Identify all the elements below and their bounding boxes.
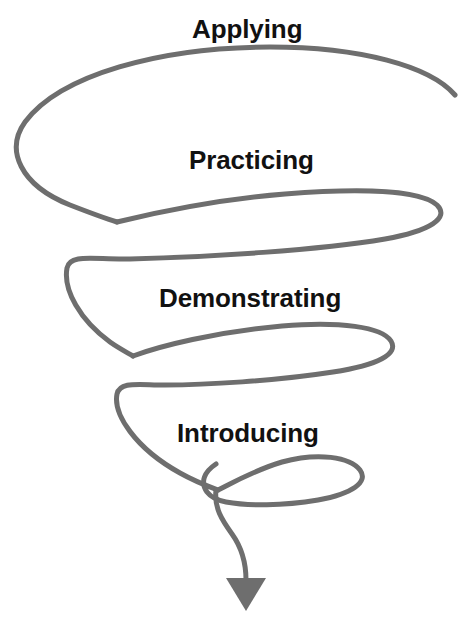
- stage-label-practicing: Practicing: [189, 147, 314, 173]
- spiral-diagram: Applying Practicing Demonstrating Introd…: [0, 0, 472, 633]
- spiral-graphic: [0, 0, 472, 633]
- spiral-loop-4-path: [204, 457, 363, 505]
- stage-label-applying: Applying: [192, 16, 302, 42]
- stage-label-introducing: Introducing: [177, 420, 319, 446]
- downward-arrowhead-icon: [226, 578, 266, 611]
- spiral-loop-1-path: [16, 47, 455, 222]
- stage-label-demonstrating: Demonstrating: [159, 285, 341, 311]
